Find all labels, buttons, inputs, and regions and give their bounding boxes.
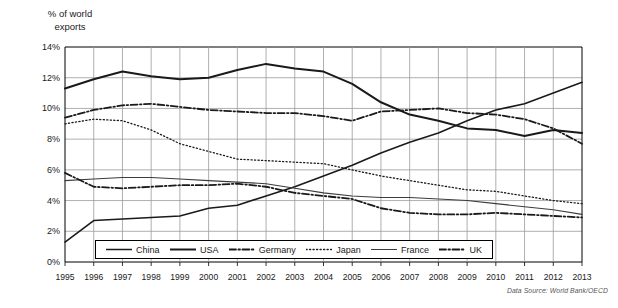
x-tick-label: 2006 <box>371 272 390 282</box>
x-tick-label: 1995 <box>55 272 74 282</box>
x-tick-label: 2012 <box>544 272 563 282</box>
legend-entry-germany[interactable]: Germany <box>229 245 296 255</box>
chart-container: % of world exports 0%2%4%6%8%10%12%14% 1… <box>0 0 618 308</box>
plot-area <box>0 0 618 308</box>
x-tick-label: 2004 <box>314 272 333 282</box>
x-tick-label: 2005 <box>343 272 362 282</box>
legend-swatch-china <box>106 245 132 254</box>
x-tick-label: 2013 <box>572 272 591 282</box>
chart-legend: ChinaUSAGermanyJapanFranceUK <box>95 240 493 259</box>
legend-swatch-usa <box>170 245 196 254</box>
legend-entry-japan[interactable]: Japan <box>306 245 361 255</box>
legend-entry-usa[interactable]: USA <box>170 245 219 255</box>
legend-swatch-uk <box>439 245 465 254</box>
x-tick-label: 2009 <box>458 272 477 282</box>
x-tick-label: 1997 <box>113 272 132 282</box>
x-tick-label: 2000 <box>199 272 218 282</box>
legend-label: France <box>401 245 429 255</box>
x-tick-label: 2003 <box>285 272 304 282</box>
legend-swatch-japan <box>306 245 332 254</box>
x-tick-label: 1996 <box>84 272 103 282</box>
legend-label: USA <box>200 245 219 255</box>
legend-entry-china[interactable]: China <box>106 245 160 255</box>
legend-entry-uk[interactable]: UK <box>439 245 482 255</box>
legend-swatch-germany <box>229 245 255 254</box>
x-tick-label: 2010 <box>486 272 505 282</box>
legend-entry-france[interactable]: France <box>371 245 429 255</box>
legend-label: Japan <box>336 245 361 255</box>
x-tick-label: 2002 <box>256 272 275 282</box>
legend-label: China <box>136 245 160 255</box>
x-tick-label: 2001 <box>228 272 247 282</box>
legend-label: UK <box>469 245 482 255</box>
x-tick-label: 2011 <box>515 272 533 282</box>
data-source-note: Data Source: World Bank/OECD <box>507 287 608 294</box>
x-tick-label: 1998 <box>142 272 161 282</box>
x-tick-label: 1999 <box>170 272 189 282</box>
x-tick-label: 2008 <box>429 272 448 282</box>
x-tick-label: 2007 <box>400 272 419 282</box>
legend-label: Germany <box>259 245 296 255</box>
legend-swatch-france <box>371 245 397 254</box>
